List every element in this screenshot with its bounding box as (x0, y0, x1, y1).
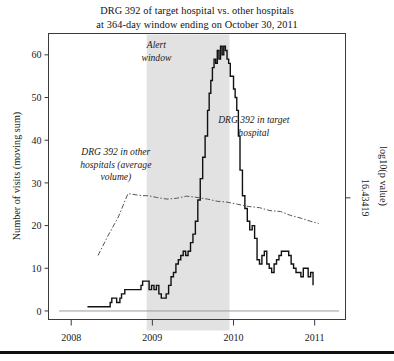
y2-axis-title: log10(p value) (377, 146, 389, 206)
y-tick-label: 20 (32, 220, 42, 231)
y-axis-ticks: 0102030405060 (32, 49, 49, 316)
annotation-line: DRG 392 in other (80, 146, 150, 157)
bottom-rule (0, 351, 394, 354)
annotation-other-hospitals: DRG 392 in otherhospitals (averagevolume… (80, 146, 152, 183)
y-tick-label: 0 (37, 306, 42, 317)
y-tick-label: 50 (32, 92, 42, 103)
y-tick-label: 60 (32, 49, 42, 60)
chart-canvas: 0102030405060 2008200920102011 16.43419 … (0, 0, 394, 361)
x-tick-label: 2009 (142, 332, 162, 343)
figure-panel: DRG 392 of target hospital vs. other hos… (0, 0, 394, 361)
chart-title-line-2: at 364-day window ending on October 30, … (0, 18, 394, 32)
y2-axis-ticks: 16.43419 (346, 179, 371, 217)
x-tick-label: 2010 (224, 332, 244, 343)
annotation-line: DRG 392 in target (217, 114, 290, 125)
chart-title-line-1: DRG 392 of target hospital vs. other hos… (0, 4, 394, 18)
chart-title: DRG 392 of target hospital vs. other hos… (0, 4, 394, 32)
x-tick-label: 2008 (61, 332, 81, 343)
y-axis-title: Number of visits (moving sum) (11, 112, 23, 240)
annotation-line: hospital (238, 127, 269, 138)
annotation-line: hospitals (average (80, 159, 152, 171)
annotation-line: Alert (146, 39, 167, 50)
annotation-line: volume) (100, 171, 131, 183)
annotation-line: window (141, 52, 171, 63)
x-tick-label: 2011 (305, 332, 325, 343)
y-tick-label: 30 (32, 178, 42, 189)
y2-tick-label: 16.43419 (360, 179, 371, 217)
y-tick-label: 40 (32, 135, 42, 146)
y-tick-label: 10 (32, 263, 42, 274)
